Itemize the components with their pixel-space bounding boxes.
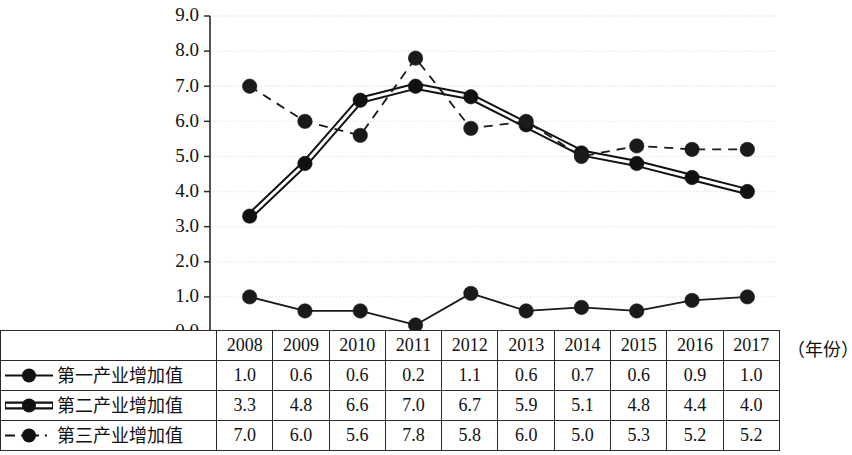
chart-figure: 0.01.02.03.04.05.06.07.08.09.0 200820092… <box>0 0 852 455</box>
y-axis-ticks <box>204 16 210 332</box>
legend-line-icon <box>1 422 57 449</box>
table-cell-value: 0.6 <box>498 361 554 391</box>
table-cell-value: 1.0 <box>723 361 779 391</box>
y-axis-tick-label: 7.0 <box>175 75 199 96</box>
data-point-marker <box>408 51 422 65</box>
series-line <box>250 293 748 325</box>
data-point-marker <box>464 90 478 104</box>
table-header-year: 2017 <box>723 331 779 361</box>
table-cell-value: 0.7 <box>554 361 610 391</box>
legend-entry: 第一产业增加值 <box>1 362 216 389</box>
series-1 <box>242 286 754 332</box>
table-cell-value: 1.1 <box>442 361 498 391</box>
table-cell-value: 3.3 <box>217 391 273 421</box>
table-cell-value: 5.9 <box>498 391 554 421</box>
table-cell-value: 0.2 <box>385 361 441 391</box>
table-cell-value: 6.6 <box>329 391 385 421</box>
legend-label: 第二产业增加值 <box>57 397 183 415</box>
data-point-marker <box>685 142 699 156</box>
data-point-marker <box>519 304 533 318</box>
table-cell-value: 5.0 <box>554 421 610 451</box>
legend-label: 第一产业增加值 <box>57 367 183 385</box>
data-point-marker <box>630 156 644 170</box>
table-header-year: 2014 <box>554 331 610 361</box>
data-point-marker <box>353 93 367 107</box>
table-cell-value: 5.2 <box>723 421 779 451</box>
table-header-year: 2008 <box>217 331 273 361</box>
legend-line-icon <box>1 392 57 419</box>
data-point-marker <box>630 139 644 153</box>
table-cell-value: 5.3 <box>611 421 667 451</box>
y-axis-tick-label: 5.0 <box>175 145 199 166</box>
data-point-marker <box>242 79 256 93</box>
table-cell-value: 4.8 <box>611 391 667 421</box>
data-table: 2008200920102011201220132014201520162017… <box>0 330 780 451</box>
data-point-marker <box>740 184 754 198</box>
table-header-year: 2016 <box>667 331 723 361</box>
table-cell-value: 6.7 <box>442 391 498 421</box>
table-cell-value: 7.0 <box>385 391 441 421</box>
data-point-marker <box>242 209 256 223</box>
legend-swatch-icon <box>1 362 57 389</box>
data-point-marker <box>574 300 588 314</box>
data-point-marker <box>464 286 478 300</box>
table-cell-value: 5.8 <box>442 421 498 451</box>
data-point-marker <box>740 290 754 304</box>
table-cell-value: 7.0 <box>217 421 273 451</box>
data-point-marker <box>519 114 533 128</box>
legend-entry: 第二产业增加值 <box>1 392 216 419</box>
data-point-marker <box>353 128 367 142</box>
table-cell-value: 5.1 <box>554 391 610 421</box>
table-cell-value: 4.4 <box>667 391 723 421</box>
table-cell-value: 5.2 <box>667 421 723 451</box>
chart-svg: 0.01.02.03.04.05.06.07.08.09.0 <box>0 0 852 340</box>
table-header-corner <box>1 331 217 361</box>
table-row: 第三产业增加值7.06.05.67.85.86.05.05.35.25.2 <box>1 421 780 451</box>
data-table-wrapper: 2008200920102011201220132014201520162017… <box>0 330 852 451</box>
data-point-marker <box>574 149 588 163</box>
table-header-year: 2011 <box>385 331 441 361</box>
legend-swatch-icon <box>1 392 57 419</box>
series-2 <box>242 79 754 223</box>
data-point-marker <box>685 293 699 307</box>
y-axis-tick-label: 6.0 <box>175 110 199 131</box>
data-point-marker <box>740 142 754 156</box>
legend-swatch-icon <box>1 422 57 449</box>
table-cell-value: 1.0 <box>217 361 273 391</box>
line-chart-plot-area: 0.01.02.03.04.05.06.07.08.09.0 <box>0 0 852 340</box>
table-row: 第二产业增加值3.34.86.67.06.75.95.14.84.44.0 <box>1 391 780 421</box>
legend-cell: 第一产业增加值 <box>1 361 217 391</box>
table-header-row: 2008200920102011201220132014201520162017 <box>1 331 780 361</box>
y-axis-tick-labels: 0.01.02.03.04.05.06.07.08.09.0 <box>175 4 199 340</box>
legend-cell: 第二产业增加值 <box>1 391 217 421</box>
table-header-year: 2010 <box>329 331 385 361</box>
legend-entry: 第三产业增加值 <box>1 422 216 449</box>
data-point-marker <box>353 304 367 318</box>
y-axis-tick-label: 1.0 <box>175 285 199 306</box>
x-axis-unit-label: （年份） <box>787 335 852 361</box>
table-header-year: 2015 <box>611 331 667 361</box>
legend-cell: 第三产业增加值 <box>1 421 217 451</box>
y-axis-tick-label: 4.0 <box>175 180 199 201</box>
data-point-marker <box>408 79 422 93</box>
table-header-year: 2013 <box>498 331 554 361</box>
table-row: 第一产业增加值1.00.60.60.21.10.60.70.60.91.0 <box>1 361 780 391</box>
series-line-outer <box>250 86 748 216</box>
table-header-year: 2009 <box>273 331 329 361</box>
series-line-inner <box>250 86 748 216</box>
table-cell-value: 0.6 <box>611 361 667 391</box>
y-axis-tick-label: 8.0 <box>175 39 199 60</box>
y-axis-tick-label: 2.0 <box>175 250 199 271</box>
data-point-marker <box>242 290 256 304</box>
table-cell-value: 0.6 <box>273 361 329 391</box>
data-point-marker <box>685 170 699 184</box>
table-cell-value: 7.8 <box>385 421 441 451</box>
data-point-marker <box>298 114 312 128</box>
table-cell-value: 0.9 <box>667 361 723 391</box>
legend-line-icon <box>1 362 57 389</box>
table-header-year: 2012 <box>442 331 498 361</box>
table-cell-value: 5.6 <box>329 421 385 451</box>
table-cell-value: 4.0 <box>723 391 779 421</box>
data-point-marker <box>298 156 312 170</box>
table-cell-value: 0.6 <box>329 361 385 391</box>
